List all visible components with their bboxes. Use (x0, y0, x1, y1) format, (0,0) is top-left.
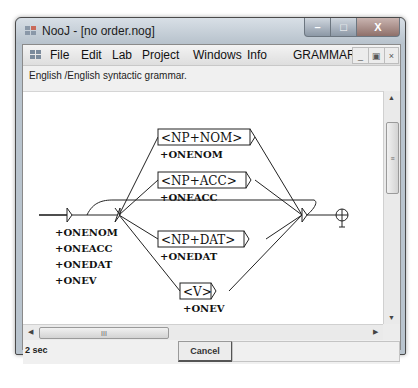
description-text: English /English syntactic grammar. (29, 70, 187, 81)
document-icon[interactable] (30, 50, 42, 60)
node-np-dat[interactable]: <NP+DAT> (161, 233, 235, 247)
menu-info[interactable]: Info (247, 48, 267, 62)
status-bar: 2 sec Cancel (23, 340, 400, 364)
node-output: +ONENOM (160, 149, 223, 160)
grammar-description: English /English syntactic grammar. (23, 66, 400, 88)
mdi-minimize-button[interactable]: _ (352, 47, 369, 64)
grammar-label: GRAMMAR (293, 48, 356, 62)
horizontal-scroll-thumb[interactable]: III (39, 327, 169, 339)
scroll-right-icon[interactable]: ▶ (373, 328, 378, 336)
menu-windows[interactable]: Windows (193, 48, 242, 62)
status-panel (232, 341, 400, 362)
initial-output: +ONEACC (55, 243, 113, 254)
initial-output: +ONEV (55, 275, 97, 286)
node-np-acc[interactable]: <NP+ACC> (161, 174, 237, 188)
elapsed-time: 2 sec (25, 345, 48, 355)
scroll-left-icon[interactable]: ◀ (28, 328, 33, 336)
mdi-close-button[interactable]: × (384, 47, 399, 64)
scroll-corner (383, 324, 400, 340)
node-output: +ONEV (183, 303, 225, 314)
minimize-button[interactable]: – (304, 18, 331, 37)
initial-output: +ONEDAT (55, 259, 113, 270)
scroll-down-icon[interactable]: ▼ (388, 314, 395, 321)
node-output: +ONEACC (160, 192, 218, 203)
menu-edit[interactable]: Edit (81, 48, 102, 62)
menu-project[interactable]: Project (142, 48, 179, 62)
menu-lab[interactable]: Lab (112, 48, 132, 62)
cancel-button[interactable]: Cancel (178, 341, 233, 362)
node-v[interactable]: <V> (183, 285, 212, 299)
close-button[interactable]: X (357, 18, 400, 37)
maximize-button[interactable]: □ (331, 18, 357, 37)
title-bar[interactable]: NooJ - [no order.nog] – □ X (16, 18, 405, 44)
node-output: +ONEDAT (160, 251, 218, 262)
horizontal-scrollbar[interactable]: ◀ III ▶ (23, 324, 383, 340)
nooj-window: NooJ - [no order.nog] – □ X File Edit La… (15, 17, 406, 355)
vertical-scroll-thumb[interactable]: ≡ (386, 122, 399, 194)
initial-output: +ONENOM (55, 227, 118, 238)
scroll-up-icon[interactable]: ▲ (388, 94, 395, 101)
app-icon (25, 26, 37, 36)
grammar-graph: <NP+NOM> <NP+ACC> <NP+DAT> <V> +ONENOM +… (23, 92, 383, 325)
node-np-nom[interactable]: <NP+NOM> (161, 131, 242, 145)
menu-bar: File Edit Lab Project Windows Info GRAMM… (23, 45, 400, 66)
window-title: NooJ - [no order.nog] (42, 24, 155, 38)
mdi-restore-button[interactable]: ▣ (368, 47, 385, 64)
grammar-child-window: File Edit Lab Project Windows Info GRAMM… (22, 44, 401, 350)
graph-canvas[interactable]: <NP+NOM> <NP+ACC> <NP+DAT> <V> +ONENOM +… (23, 91, 383, 325)
menu-file[interactable]: File (50, 48, 69, 62)
vertical-scrollbar[interactable]: ▲ ≡ ▼ (383, 91, 400, 324)
